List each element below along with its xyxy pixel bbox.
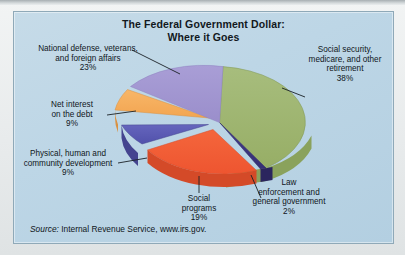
leader-line-net-interest: [107, 111, 136, 115]
label-physical-development: Physical, human and community developmen…: [16, 149, 120, 178]
label-social-programs: Social programs 19%: [166, 194, 232, 223]
source-note: Source: Internal Revenue Service, www.ir…: [30, 224, 206, 234]
scanned-page-background: The Federal Government Dollar: Where it …: [0, 0, 405, 255]
source-label: Source:: [30, 224, 59, 234]
label-law-enforcement: Law enforcement and general government 2…: [242, 178, 336, 216]
label-national-defense: National defense, veterans, and foreign …: [20, 44, 156, 73]
pie-chart-figure: The Federal Government Dollar: Where it …: [13, 11, 394, 244]
label-net-interest: Net interest on the debt 9%: [34, 100, 110, 129]
scan-edge-strip: [0, 0, 405, 5]
source-value: Internal Revenue Service, www.irs.gov.: [59, 224, 206, 234]
label-social-security: Social security, medicare, and other ret…: [299, 45, 391, 83]
